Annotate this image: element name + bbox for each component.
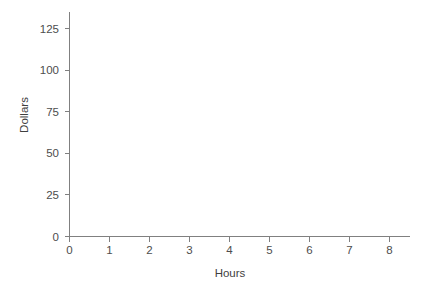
y-tick-label-0: 0 — [53, 231, 59, 243]
y-axis-title: Dollars — [18, 97, 30, 133]
y-axis-tick-labels: 0 25 50 75 100 125 — [40, 23, 59, 243]
x-tick-label-3: 3 — [186, 244, 192, 256]
x-tick-label-2: 2 — [146, 244, 152, 256]
x-tick-label-5: 5 — [266, 244, 272, 256]
x-tick-label-1: 1 — [106, 244, 112, 256]
chart-container: 0 25 50 75 100 125 0 1 2 3 4 5 6 7 — [0, 0, 423, 304]
y-tick-label-75: 75 — [46, 106, 59, 118]
y-tick-label-125: 125 — [40, 23, 59, 35]
y-tick-label-100: 100 — [40, 64, 59, 76]
chart-plot-svg: 0 25 50 75 100 125 0 1 2 3 4 5 6 7 — [0, 0, 423, 304]
x-axis-title: Hours — [215, 267, 246, 279]
y-axis-ticks — [65, 29, 70, 237]
x-axis-tick-labels: 0 1 2 3 4 5 6 7 8 — [66, 244, 392, 256]
x-tick-label-8: 8 — [386, 244, 392, 256]
x-tick-label-6: 6 — [306, 244, 312, 256]
x-tick-label-4: 4 — [226, 244, 233, 256]
x-tick-label-7: 7 — [346, 244, 352, 256]
y-tick-label-50: 50 — [46, 147, 59, 159]
x-tick-label-0: 0 — [66, 244, 72, 256]
plot-area — [69, 12, 410, 236]
x-axis-ticks — [70, 237, 390, 242]
y-tick-label-25: 25 — [46, 189, 59, 201]
